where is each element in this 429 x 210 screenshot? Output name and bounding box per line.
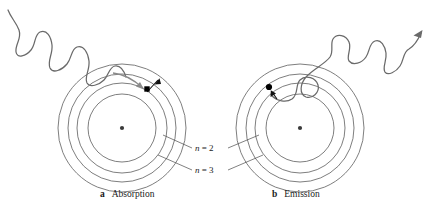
outgoing-photon-arrowhead	[414, 30, 423, 38]
orbit-label-n3: n = 3	[195, 165, 214, 175]
leader-n2-left	[163, 135, 192, 148]
emission-panel	[236, 30, 423, 192]
leader-n2-right	[228, 135, 259, 148]
orbit-label-n2-value: = 2	[200, 143, 214, 153]
orbit-label-n3-value: = 3	[200, 165, 214, 175]
electron-marker	[144, 86, 149, 91]
outgoing-photon-wave	[272, 33, 421, 101]
caption-absorption: aAbsorption	[100, 189, 155, 199]
electron-marker	[266, 84, 272, 90]
leader-n3-right	[228, 155, 263, 170]
nucleus-dot	[120, 126, 124, 130]
caption-emission-text: Emission	[284, 189, 319, 199]
caption-absorption-letter: a	[100, 189, 105, 199]
caption-emission: bEmission	[272, 189, 320, 199]
caption-absorption-text: Absorption	[112, 189, 155, 199]
incoming-photon-wave	[8, 10, 126, 86]
nucleus-dot	[298, 126, 302, 130]
caption-emission-letter: b	[272, 189, 277, 199]
orbit-label-n2: n = 2	[195, 143, 214, 153]
electron-jump-arrowhead	[155, 78, 162, 84]
absorption-panel	[8, 10, 186, 192]
bohr-atom-photon-diagram	[0, 0, 429, 210]
